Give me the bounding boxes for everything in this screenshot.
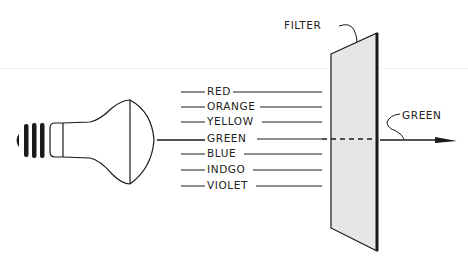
- filter-panel: [331, 33, 377, 251]
- label-violet: VIOLET: [207, 179, 248, 191]
- label-red: RED: [207, 85, 231, 97]
- arrow-right-icon: [380, 137, 457, 143]
- output-label: GREEN: [402, 109, 442, 121]
- filter-label: FILTER: [284, 19, 321, 31]
- label-indigo: INDGO: [207, 163, 245, 175]
- label-blue: BLUE: [207, 147, 236, 159]
- label-green: GREEN: [207, 132, 247, 144]
- filter-leader-line: [339, 25, 357, 42]
- label-orange: ORANGE: [207, 100, 256, 112]
- color-filter-diagram: RED ORANGE YELLOW GREEN BLUE INDGO VIOLE…: [0, 0, 468, 264]
- label-yellow: YELLOW: [206, 115, 254, 127]
- spectrum-labels: RED ORANGE YELLOW GREEN BLUE INDGO VIOLE…: [206, 85, 256, 191]
- light-bulb-icon: [17, 100, 155, 184]
